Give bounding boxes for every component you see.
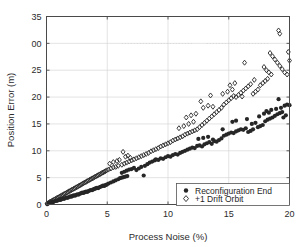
scatter-chart-figure: 0510152025003505101520 Process Noise (%)…	[0, 0, 303, 247]
data-point	[251, 127, 255, 131]
data-point	[200, 123, 204, 128]
data-point	[210, 114, 214, 119]
data-point	[280, 110, 284, 114]
data-point	[234, 119, 238, 123]
data-point	[274, 107, 278, 111]
data-point	[249, 82, 253, 87]
data-point	[251, 91, 255, 96]
data-point	[266, 76, 270, 81]
data-point	[184, 115, 188, 120]
data-point	[121, 149, 125, 154]
data-point	[261, 123, 265, 127]
data-point	[203, 120, 207, 125]
data-point	[244, 126, 248, 130]
data-point	[279, 106, 283, 110]
plot-svg: 0510152025003505101520 Process Noise (%)…	[0, 0, 303, 247]
x-tick-label: 15	[224, 209, 234, 219]
data-point	[125, 174, 129, 178]
x-tick-label: 10	[163, 209, 173, 219]
data-point	[230, 120, 234, 124]
data-point	[189, 113, 193, 118]
data-point	[205, 118, 209, 123]
data-point	[244, 86, 248, 91]
data-point	[224, 100, 228, 105]
data-point	[139, 165, 143, 169]
y-axis-title: Position Error (m)	[5, 73, 16, 147]
y-tick-label: 00	[31, 39, 41, 49]
data-point	[201, 136, 205, 140]
data-point	[267, 111, 271, 115]
data-point	[212, 112, 216, 117]
data-point	[221, 91, 225, 96]
legend-label-drift-orbit: +1 Drift Orbit	[195, 194, 244, 204]
y-tick-label: 20	[31, 92, 41, 102]
data-point	[221, 127, 225, 131]
data-point	[269, 72, 273, 77]
data-point	[217, 107, 221, 112]
data-point	[257, 114, 261, 118]
data-point	[230, 87, 234, 92]
legend-marker-filled-circle-icon	[184, 188, 188, 192]
data-point	[253, 121, 257, 125]
data-point	[177, 126, 181, 131]
y-tick-label: 10	[31, 146, 41, 156]
legend: Reconfiguration End +1 Drift Orbit	[177, 184, 290, 206]
data-point	[211, 104, 215, 109]
data-point	[198, 125, 202, 130]
data-point	[261, 81, 265, 86]
data-point	[215, 110, 219, 115]
data-point	[284, 113, 288, 117]
x-tick-label: 0	[44, 209, 49, 219]
data-point	[199, 99, 203, 104]
data-point	[254, 89, 258, 94]
x-tick-label: 5	[105, 209, 110, 219]
data-points-group	[45, 28, 292, 206]
data-point	[182, 124, 186, 129]
data-point	[263, 78, 267, 83]
data-point	[256, 87, 260, 92]
data-point	[194, 111, 198, 116]
data-point	[241, 88, 245, 93]
x-tick-label: 20	[284, 209, 294, 219]
data-point	[207, 116, 211, 121]
data-point	[192, 119, 196, 124]
data-point	[206, 103, 210, 108]
series-open-diamond	[45, 28, 291, 206]
y-tick-label: 25	[31, 65, 41, 75]
data-point	[196, 137, 200, 141]
y-tick-label: 5	[36, 173, 41, 183]
data-point	[276, 97, 280, 101]
data-point	[229, 96, 233, 101]
data-point	[142, 173, 146, 177]
gridlines-group	[47, 17, 290, 205]
data-point	[252, 77, 256, 82]
data-point	[267, 70, 271, 75]
data-point	[211, 137, 215, 141]
data-point	[285, 72, 289, 77]
y-tick-label: 35	[31, 12, 41, 22]
y-tick-label: 15	[31, 119, 41, 129]
data-point	[262, 112, 266, 116]
data-point	[233, 81, 237, 86]
data-point	[246, 84, 250, 89]
data-point	[201, 105, 205, 110]
data-point	[243, 60, 247, 65]
data-point	[258, 83, 262, 88]
data-point	[245, 117, 249, 121]
y-tick-label: 0	[36, 200, 41, 210]
data-point	[250, 122, 254, 126]
x-axis-title: Process Noise (%)	[129, 231, 208, 242]
data-point	[206, 135, 210, 139]
